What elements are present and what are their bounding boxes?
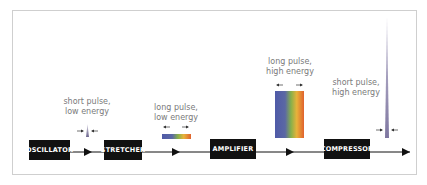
compress-arrowhead-right: [91, 130, 94, 133]
short-low-pulse: [86, 124, 89, 137]
pulse-label-short-low: short pulse, low energy: [62, 97, 112, 117]
arrowhead-1: [84, 148, 92, 156]
compress-arrowhead-left: [81, 130, 84, 133]
pulse-label-line2: low energy: [62, 107, 112, 117]
arrowhead-3: [286, 148, 294, 156]
stretch-arrowhead-left-2: [276, 84, 279, 87]
pulse-label-line1: short pulse,: [329, 78, 383, 88]
compress-arrowhead-left-2: [380, 129, 383, 132]
stretch-arrowhead-left: [163, 126, 166, 129]
pulse-label-line2: high energy: [263, 67, 317, 77]
pulse-label-long-high: long pulse, high energy: [263, 57, 317, 77]
pulse-label-line1: long pulse,: [151, 103, 201, 113]
stretcher-box: STRETCHER: [104, 140, 142, 160]
pulse-label-line1: short pulse,: [62, 97, 112, 107]
pulse-label-long-low: long pulse, low energy: [151, 103, 201, 123]
long-low-pulse: [162, 134, 191, 139]
pulse-label-line1: long pulse,: [263, 57, 317, 67]
stretch-arrowhead-right-2: [300, 84, 303, 87]
oscillator-box: OSCILLATOR: [29, 140, 70, 160]
long-high-pulse: [275, 91, 304, 138]
arrowhead-4: [402, 148, 410, 156]
short-high-pulse: [385, 17, 389, 138]
arrowhead-2: [172, 148, 180, 156]
compress-arrowhead-right-2: [391, 129, 394, 132]
stretch-arrowhead-right: [186, 126, 189, 129]
pulse-label-line2: low energy: [151, 113, 201, 123]
pulse-label-line2: high energy: [329, 88, 383, 98]
amplifier-box: AMPLIFIER: [210, 139, 256, 159]
compressor-box: COMPRESSOR: [324, 139, 370, 159]
pulse-label-short-high: short pulse, high energy: [329, 78, 383, 98]
